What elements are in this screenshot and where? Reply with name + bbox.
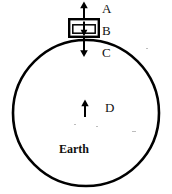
arrow-d-up-icon (81, 100, 88, 118)
scan-speck (74, 124, 76, 125)
scan-speck (132, 131, 136, 132)
scan-speck (96, 126, 98, 127)
arrow-a-up-icon (80, 2, 88, 19)
label-d: D (105, 101, 114, 114)
label-earth: Earth (59, 143, 89, 155)
label-c: C (102, 46, 111, 59)
physics-diagram: A B C D Earth (0, 0, 172, 194)
label-a: A (102, 2, 111, 15)
scan-speck (146, 48, 148, 49)
label-b: B (102, 24, 111, 37)
diagram-canvas (0, 0, 172, 194)
